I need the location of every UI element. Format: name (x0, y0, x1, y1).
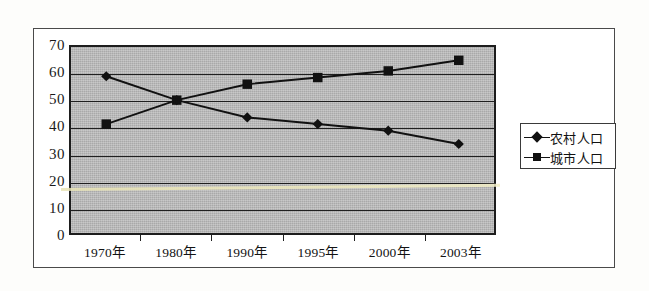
x-axis-tick-label: 2000年 (354, 241, 425, 265)
data-point-diamond (313, 119, 323, 129)
data-point-square (172, 95, 182, 104)
y-axis-tick-label: 40 (31, 119, 65, 134)
x-axis-tick-mark (425, 235, 426, 241)
series-line (106, 60, 459, 124)
x-axis-tick-label: 1995年 (283, 241, 354, 265)
y-axis-tick-label: 30 (31, 147, 65, 162)
data-point-diamond (242, 112, 252, 122)
chart-legend: 农村人口 城市人口 (520, 123, 616, 169)
data-point-square (383, 66, 393, 75)
x-axis-tick-label: 1990年 (211, 241, 282, 265)
legend-label-urban: 城市人口 (550, 148, 604, 167)
series-line (106, 76, 459, 144)
x-axis-labels: 1970年1980年1990年1995年2000年2003年 (69, 241, 496, 265)
y-axis-tick-label: 10 (31, 201, 65, 216)
x-axis-tick-mark (140, 235, 141, 241)
x-axis-tick-label: 2003年 (425, 241, 496, 265)
series-layer (71, 47, 494, 233)
data-point-diamond (383, 126, 393, 136)
data-point-diamond (454, 139, 464, 149)
plot-area (69, 45, 496, 235)
data-point-square (242, 80, 252, 89)
square-marker-icon (524, 150, 550, 164)
diamond-marker-icon (524, 130, 550, 144)
legend-item-urban: 城市人口 (524, 147, 611, 167)
legend-item-rural: 农村人口 (524, 127, 611, 147)
y-axis-tick-label: 20 (31, 174, 65, 189)
x-axis-tick-mark (283, 235, 284, 241)
series-rural (101, 71, 464, 149)
data-point-square (101, 119, 111, 128)
chart-outer-frame: 010203040506070 1970年1980年1990年1995年2000… (33, 28, 615, 268)
legend-label-rural: 农村人口 (550, 128, 604, 147)
y-axis-tick-label: 60 (31, 65, 65, 80)
x-axis-tick-label: 1970年 (69, 241, 140, 265)
x-axis-tick-label: 1980年 (140, 241, 211, 265)
x-axis-tick-mark (354, 235, 355, 241)
data-point-diamond (101, 71, 111, 81)
y-axis-tick-label: 50 (31, 92, 65, 107)
data-point-square (454, 56, 464, 65)
y-axis-tick-label: 0 (31, 228, 65, 243)
y-axis-tick-label: 70 (31, 38, 65, 53)
x-axis-tick-mark (211, 235, 212, 241)
data-point-square (313, 73, 323, 82)
y-axis-labels: 010203040506070 (25, 29, 65, 219)
